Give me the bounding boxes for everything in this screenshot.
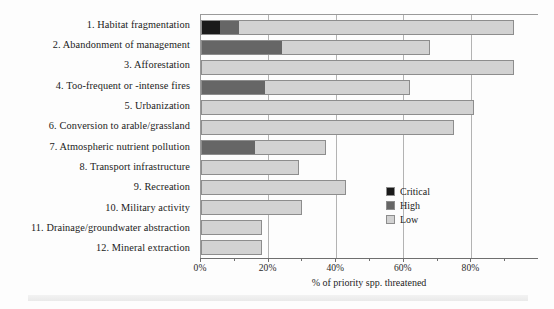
stacked-bar	[201, 120, 454, 135]
bar-segment-low	[282, 41, 429, 54]
legend-swatch-critical	[386, 187, 395, 196]
legend-swatch-low	[386, 215, 395, 224]
legend-label: High	[400, 200, 420, 211]
bar-segment-high	[202, 141, 255, 154]
category-label: 1. Habitat fragmentation	[0, 14, 196, 34]
stacked-bar	[201, 60, 514, 75]
bar-row	[201, 17, 538, 37]
bar-row	[201, 178, 538, 198]
x-tick	[234, 258, 235, 261]
stacked-bar	[201, 20, 514, 35]
category-label: 10. Military activity	[0, 197, 196, 217]
bar-row	[201, 238, 538, 258]
bar-row	[201, 57, 538, 77]
category-axis-labels: 1. Habitat fragmentation2. Abandonment o…	[0, 14, 196, 258]
bar-row	[201, 137, 538, 157]
x-tick-label: 60%	[394, 262, 412, 273]
bar-row	[201, 218, 538, 238]
stacked-bar	[201, 40, 430, 55]
category-label: 7. Atmospheric nutrient pollution	[0, 136, 196, 156]
chart-legend: CriticalHighLow	[386, 186, 430, 225]
stacked-bar	[201, 180, 346, 195]
stacked-bar	[201, 100, 474, 115]
bar-segment-low	[202, 221, 261, 234]
legend-item: Low	[386, 214, 430, 225]
bar-segment-low	[255, 141, 325, 154]
bar-row	[201, 97, 538, 117]
category-label: 2. Abandonment of management	[0, 34, 196, 54]
category-label: 5. Urbanization	[0, 95, 196, 115]
stacked-bar	[201, 80, 410, 95]
bar-row	[201, 37, 538, 57]
legend-swatch-high	[386, 201, 395, 210]
category-label: 6. Conversion to arable/grassland	[0, 116, 196, 136]
bar-segment-low	[239, 21, 514, 34]
category-label: 12. Mineral extraction	[0, 238, 196, 258]
x-tick-label: 40%	[326, 262, 344, 273]
bar-row	[201, 77, 538, 97]
bar-segment-low	[202, 161, 298, 174]
bar-segment-high	[202, 41, 282, 54]
category-label: 11. Drainage/groundwater abstraction	[0, 217, 196, 237]
bar-segment-low	[202, 121, 453, 134]
x-tick	[301, 258, 302, 261]
bar-row	[201, 198, 538, 218]
x-tick	[437, 258, 438, 261]
stacked-bar	[201, 240, 262, 255]
legend-item: High	[386, 200, 430, 211]
stacked-bar	[201, 140, 326, 155]
legend-item: Critical	[386, 186, 430, 197]
x-tick-label: 20%	[259, 262, 277, 273]
x-tick	[504, 258, 505, 261]
stacked-bar	[201, 160, 299, 175]
legend-label: Critical	[400, 186, 430, 197]
plot-area	[200, 14, 538, 258]
bar-segment-low	[202, 241, 261, 254]
bar-segment-low	[265, 81, 409, 94]
stacked-bar	[201, 220, 262, 235]
bar-segment-high	[220, 21, 238, 34]
bar-segment-low	[202, 181, 345, 194]
bar-row	[201, 117, 538, 137]
bar-segment-critical	[202, 21, 220, 34]
legend-label: Low	[400, 214, 418, 225]
footer-strip	[28, 295, 528, 301]
bar-segment-low	[202, 101, 473, 114]
bar-segment-low	[202, 201, 301, 214]
stacked-bar	[201, 200, 302, 215]
category-label: 8. Transport infrastructure	[0, 156, 196, 176]
category-label: 9. Recreation	[0, 177, 196, 197]
category-label: 3. Afforestation	[0, 55, 196, 75]
x-tick-label: 80%	[462, 262, 480, 273]
bar-series-container	[201, 15, 538, 258]
bar-row	[201, 158, 538, 178]
category-label: 4. Too-frequent or -intense fires	[0, 75, 196, 95]
bar-segment-high	[202, 81, 265, 94]
chart-figure: 1. Habitat fragmentation2. Abandonment o…	[0, 0, 554, 309]
x-tick-label: 0%	[194, 262, 207, 273]
bar-segment-low	[202, 61, 513, 74]
x-tick	[369, 258, 370, 261]
x-axis-title: % of priority spp. threatened	[200, 277, 538, 288]
